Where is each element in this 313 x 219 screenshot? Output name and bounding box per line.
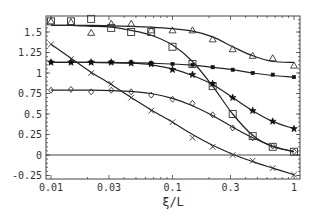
star-marker [128,60,135,67]
star-marker [148,60,155,67]
y-tick-label: -0.25 [12,170,42,181]
y-tick-label: 0.75 [18,88,42,99]
y-tick-label: 1 [36,68,42,79]
curve-triangles [51,25,294,62]
x-tick-label: 1 [291,182,297,193]
y-tick-label: 0.5 [24,109,42,120]
star-marker [291,125,298,132]
x-tick-label: 0.1 [163,182,181,193]
star-marker [108,59,115,66]
triangle-marker [291,62,298,68]
x-tick-label: 0.03 [97,182,121,193]
cross-marker [190,135,196,141]
series-markers [48,15,298,177]
star-marker [269,118,276,125]
y-tick-label: 1.5 [24,27,42,38]
dot-marker [211,66,214,69]
dot-marker [231,68,234,71]
x-axis-label: ξ/L [162,195,184,209]
curve-squares [51,25,294,151]
star-marker [48,59,55,66]
series-curves [51,25,294,174]
dot-marker [191,63,194,66]
triangle-marker [128,20,135,26]
curve-diamonds [51,90,294,152]
dot-marker [271,73,274,76]
star-marker [169,66,176,73]
diamond-marker [68,86,73,92]
line-chart: 1.51.2510.750.50.250-0.25 0.010.030.10.3… [0,0,313,219]
y-tick-label: 0 [36,150,42,161]
dot-marker [251,71,254,74]
triangle-marker [169,27,176,33]
dot-marker [292,76,295,79]
dot-marker [171,62,174,65]
x-tick-label: 0.01 [39,182,63,193]
x-tick-label: 0.3 [221,182,239,193]
y-tick-label: 0.25 [18,129,42,140]
triangle-marker [67,19,74,25]
y-axis: 1.51.2510.750.50.250-0.25 [12,20,300,181]
cross-marker [128,95,134,101]
triangle-marker [88,29,95,35]
y-tick-label: 1.25 [18,47,42,58]
cross-marker [170,119,176,125]
star-marker [88,59,95,66]
triangle-marker [269,55,276,61]
cross-marker [48,42,54,48]
